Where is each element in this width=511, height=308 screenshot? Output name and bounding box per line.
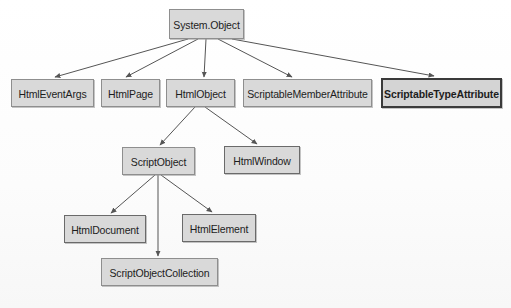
node-label-html-document: HtmlDocument: [71, 224, 139, 235]
edge-object-to-page: [126, 39, 198, 77]
class-hierarchy-diagram: System.ObjectHtmlEventArgsHtmlPageHtmlOb…: [0, 0, 511, 308]
node-html-element[interactable]: HtmlElement: [182, 214, 256, 242]
node-label-scriptable-member-attribute: ScriptableMemberAttribute: [247, 88, 368, 99]
node-html-window[interactable]: HtmlWindow: [224, 146, 300, 174]
edge-object-to-memberattribute: [218, 39, 292, 77]
node-label-script-object-collection: ScriptObjectCollection: [110, 267, 210, 278]
edge-object-to-htmlobject: [204, 39, 206, 77]
node-label-html-window: HtmlWindow: [233, 155, 290, 166]
edge-scriptobject-to-document: [111, 175, 155, 213]
edge-object-to-typeattribute: [232, 39, 434, 76]
node-script-object-collection[interactable]: ScriptObjectCollection: [101, 258, 218, 286]
edge-htmlobject-to-scriptobject: [160, 107, 195, 145]
node-scriptable-type-attribute[interactable]: ScriptableTypeAttribute: [381, 78, 502, 108]
node-script-object[interactable]: ScriptObject: [122, 147, 195, 175]
node-label-html-object: HtmlObject: [175, 88, 225, 99]
node-html-event-args[interactable]: HtmlEventArgs: [11, 79, 94, 107]
node-scriptable-member-attribute[interactable]: ScriptableMemberAttribute: [243, 79, 372, 107]
edge-object-to-eventargs: [55, 39, 188, 77]
node-label-scriptable-type-attribute: ScriptableTypeAttribute: [384, 88, 499, 99]
node-label-system-object: System.Object: [173, 19, 239, 30]
edge-scriptobject-to-element: [161, 175, 212, 212]
node-html-object[interactable]: HtmlObject: [166, 79, 235, 107]
node-system-object[interactable]: System.Object: [169, 9, 244, 39]
node-label-script-object: ScriptObject: [131, 156, 186, 167]
node-label-html-event-args: HtmlEventArgs: [18, 88, 86, 99]
node-label-html-page: HtmlPage: [108, 88, 153, 99]
node-label-html-element: HtmlElement: [190, 223, 248, 234]
node-html-page[interactable]: HtmlPage: [101, 79, 160, 107]
node-html-document[interactable]: HtmlDocument: [64, 215, 146, 243]
edge-htmlobject-to-htmlwindow: [205, 107, 257, 144]
